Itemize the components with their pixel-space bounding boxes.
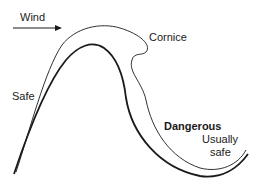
usually-safe-label-line2: safe xyxy=(210,146,231,158)
cornice-label: Cornice xyxy=(149,31,187,43)
wind-label: Wind xyxy=(20,11,45,23)
dangerous-label: Dangerous xyxy=(164,120,221,132)
safe-label: Safe xyxy=(12,90,35,102)
usually-safe-label-line1: Usually xyxy=(202,133,238,145)
wind-arrow-icon xyxy=(13,25,62,31)
